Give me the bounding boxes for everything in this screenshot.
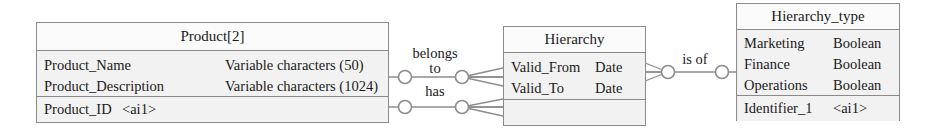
entity-hierarchy-type[interactable]: Hierarchy_type Marketing Boolean Finance…: [736, 3, 900, 121]
entity-product-identifiers: Product_ID <ai1>: [37, 97, 388, 122]
attribute-row: Product_Description Variable characters …: [37, 76, 388, 97]
attribute-type: Date: [595, 81, 622, 96]
identifier-code: <ai1>: [122, 102, 156, 117]
attribute-row: Product_Name Variable characters (50): [37, 55, 388, 76]
attribute-type: Boolean: [833, 78, 881, 93]
attribute-type: Variable characters (50): [225, 58, 363, 73]
attribute-row: Marketing Boolean: [737, 33, 899, 54]
entity-hierarchy-attributes: Valid_From Date Valid_To Date: [504, 53, 645, 100]
entity-hierarchy-type-identifiers: Identifier_1 <ai1>: [737, 96, 899, 121]
relationship-label-has: has: [404, 84, 466, 99]
attribute-name: Finance: [744, 57, 833, 72]
attribute-row: Operations Boolean: [737, 75, 899, 96]
identifier-name: Identifier_1: [744, 101, 833, 116]
attribute-name: Marketing: [744, 36, 833, 51]
cardinality-circle-is-of-left: [662, 66, 675, 79]
attribute-type: Boolean: [833, 36, 881, 51]
er-diagram-canvas: belongs to has is of Product[2] Product_…: [0, 0, 937, 135]
entity-hierarchy-type-attributes: Marketing Boolean Finance Boolean Operat…: [737, 30, 899, 96]
attribute-name: Valid_From: [511, 60, 595, 75]
attribute-name: Product_Description: [44, 79, 225, 94]
identifier-row: Identifier_1 <ai1>: [737, 96, 899, 121]
attribute-name: Product_Name: [44, 58, 225, 73]
entity-hierarchy-title: Hierarchy: [504, 27, 645, 53]
cardinality-circle-has-left: [399, 101, 412, 114]
cardinality-circle-has-right: [456, 101, 469, 114]
relationship-label-is-of: is of: [663, 52, 727, 67]
attribute-row: Finance Boolean: [737, 54, 899, 75]
relationship-label-belongs-to: belongs to: [404, 46, 466, 76]
attribute-row: Valid_To Date: [504, 78, 645, 99]
attribute-row: Valid_From Date: [504, 57, 645, 78]
attribute-type: Variable characters (1024): [225, 79, 378, 94]
attribute-type: Date: [595, 60, 622, 75]
identifier-row: Product_ID <ai1>: [37, 97, 388, 122]
entity-hierarchy[interactable]: Hierarchy Valid_From Date Valid_To Date: [503, 26, 646, 126]
attribute-name: Valid_To: [511, 81, 595, 96]
entity-product[interactable]: Product[2] Product_Name Variable charact…: [36, 22, 389, 123]
identifier-code: <ai1>: [833, 101, 867, 116]
entity-hierarchy-identifiers: [504, 100, 645, 125]
entity-product-attributes: Product_Name Variable characters (50) Pr…: [37, 51, 388, 97]
identifier-name: Product_ID: [44, 102, 122, 117]
entity-product-title: Product[2]: [37, 23, 388, 51]
cardinality-circle-is-of-right: [716, 66, 729, 79]
entity-hierarchy-type-title: Hierarchy_type: [737, 4, 899, 30]
attribute-name: Operations: [744, 78, 833, 93]
attribute-type: Boolean: [833, 57, 881, 72]
